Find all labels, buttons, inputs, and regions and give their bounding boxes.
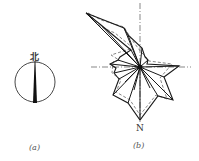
wind-rose-center [138,65,143,70]
north-label: 北 [30,50,39,63]
wind-rose [86,3,191,122]
caption-a: (a) [29,143,40,152]
figure-svg [0,0,199,161]
north-arrow [15,61,55,103]
north-needle-icon [33,61,37,103]
figure: 北 N (a) (b) [0,0,199,161]
caption-b: (b) [133,141,144,150]
wind-rose-n-label: N [136,123,144,133]
